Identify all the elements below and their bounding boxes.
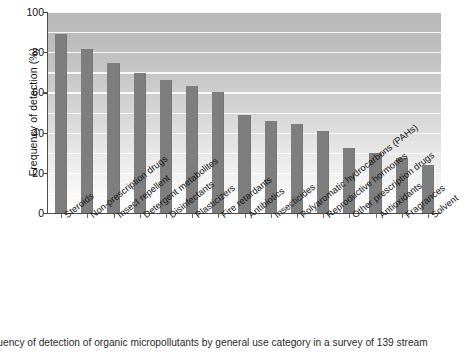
y-tick-mark	[43, 92, 47, 93]
bar	[55, 34, 67, 213]
y-tick-mark	[43, 133, 47, 134]
y-tick-label: 20	[12, 168, 44, 178]
y-tick-mark	[43, 12, 47, 13]
plot-area	[48, 12, 441, 213]
x-axis-tick-labels: SteroidsNon-prescription drugsInsect rep…	[0, 213, 465, 333]
y-tick-mark	[43, 52, 47, 53]
y-tick-label: 60	[12, 87, 44, 97]
bar	[81, 49, 93, 213]
figure-caption: equency of detection of organic micropol…	[0, 336, 465, 349]
y-tick-mark	[43, 173, 47, 174]
chart-figure: Frequency of detection (%) 020406080100 …	[0, 0, 465, 354]
y-tick-label: 100	[12, 7, 44, 17]
y-axis-line	[47, 12, 48, 214]
y-tick-label: 40	[12, 128, 44, 138]
y-tick-label: 80	[12, 47, 44, 57]
bar-series	[48, 12, 441, 213]
